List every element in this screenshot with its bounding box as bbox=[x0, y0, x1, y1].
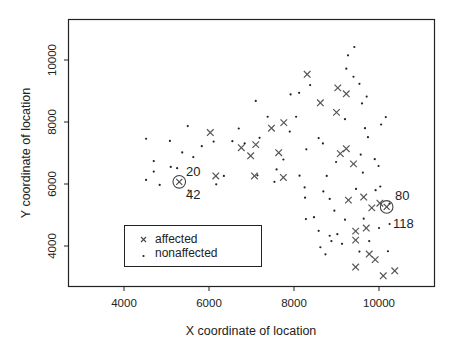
nonaffected-point-icon bbox=[358, 83, 360, 85]
affected-point-icon bbox=[345, 197, 352, 204]
nonaffected-point-icon bbox=[378, 227, 380, 229]
affected-point-icon bbox=[380, 272, 387, 279]
nonaffected-point-icon bbox=[336, 233, 338, 235]
nonaffected-point-icon bbox=[324, 253, 326, 255]
nonaffected-point-icon bbox=[329, 198, 331, 200]
nonaffected-point-icon bbox=[364, 127, 366, 129]
affected-point-icon bbox=[366, 251, 373, 258]
affected-point-icon bbox=[363, 225, 370, 232]
x-tick-label: 4000 bbox=[111, 297, 137, 309]
annotation-20: 20 bbox=[186, 164, 200, 179]
nonaffected-point-icon bbox=[255, 100, 257, 102]
nonaffected-point-icon bbox=[361, 102, 363, 104]
affected-point-icon bbox=[252, 141, 259, 148]
y-axis-title: Y coordinate of location bbox=[19, 88, 33, 218]
annotation-80: 80 bbox=[395, 188, 409, 203]
annotation-42: 42 bbox=[186, 187, 200, 202]
nonaffected-point-icon bbox=[335, 161, 337, 163]
affected-point-icon bbox=[352, 237, 359, 244]
affected-point-icon bbox=[281, 119, 288, 126]
nonaffected-point-icon bbox=[305, 218, 307, 220]
nonaffected-point-icon bbox=[345, 68, 347, 70]
nonaffected-point-icon bbox=[215, 183, 217, 185]
nonaffected-point-icon bbox=[389, 223, 391, 225]
nonaffected-point-icon bbox=[213, 140, 215, 142]
nonaffected-point-icon bbox=[322, 142, 324, 144]
nonaffected-point-icon bbox=[367, 136, 369, 138]
nonaffected-point-icon bbox=[153, 160, 155, 162]
affected-point-icon bbox=[372, 256, 379, 263]
nonaffected-point-icon bbox=[176, 167, 178, 169]
x-tick-label: 10000 bbox=[363, 297, 395, 309]
nonaffected-point-icon bbox=[322, 190, 324, 192]
nonaffected-point-icon bbox=[304, 197, 306, 199]
nonaffected-point-icon bbox=[169, 140, 171, 142]
nonaffected-point-icon bbox=[282, 158, 284, 160]
affected-point-icon bbox=[333, 109, 340, 116]
nonaffected-point-icon bbox=[368, 240, 370, 242]
affected-point-icon bbox=[213, 173, 220, 180]
affected-point-icon bbox=[343, 90, 350, 97]
y-tick-label: 8000 bbox=[46, 109, 58, 135]
nonaffected-point-icon bbox=[375, 189, 377, 191]
nonaffected-point-icon bbox=[238, 127, 240, 129]
nonaffected-point-icon bbox=[187, 125, 189, 127]
nonaffected-point-icon bbox=[379, 185, 381, 187]
x-tick-label: 6000 bbox=[196, 297, 222, 309]
nonaffected-point-icon bbox=[231, 140, 233, 142]
highlighted-points bbox=[173, 176, 393, 214]
affected-point-icon bbox=[352, 228, 359, 235]
nonaffected-point-icon bbox=[385, 116, 387, 118]
nonaffected-point-icon bbox=[289, 131, 291, 133]
legend-label-affected: affected bbox=[155, 232, 197, 246]
nonaffected-point-icon bbox=[352, 76, 354, 78]
y-axis: 40006000800010000 bbox=[46, 44, 69, 259]
nonaffected-point-icon bbox=[355, 188, 357, 190]
affected-point-icon bbox=[368, 205, 375, 212]
affected-point-icon bbox=[238, 144, 245, 151]
nonaffected-point-icon bbox=[192, 156, 194, 158]
y-tick-label: 4000 bbox=[46, 233, 58, 259]
affected-point-icon bbox=[247, 152, 254, 159]
nonaffected-point-icon bbox=[333, 210, 335, 212]
legend-dot-icon bbox=[142, 255, 144, 257]
legend-label-nonaffected: nonaffected bbox=[155, 246, 218, 260]
affected-point-icon bbox=[391, 268, 398, 275]
nonaffected-point-icon bbox=[159, 184, 161, 186]
series-nonaffected bbox=[145, 46, 391, 256]
nonaffected-point-icon bbox=[319, 246, 321, 248]
nonaffected-point-icon bbox=[341, 243, 343, 245]
nonaffected-point-icon bbox=[181, 151, 183, 153]
nonaffected-point-icon bbox=[347, 54, 349, 56]
affected-point-icon bbox=[343, 145, 350, 152]
x-axis-title: X coordinate of location bbox=[186, 324, 317, 338]
nonaffected-point-icon bbox=[298, 92, 300, 94]
nonaffected-point-icon bbox=[290, 93, 292, 95]
affected-point-icon bbox=[334, 85, 341, 92]
nonaffected-point-icon bbox=[358, 250, 360, 252]
nonaffected-point-icon bbox=[153, 171, 155, 173]
nonaffected-point-icon bbox=[318, 137, 320, 139]
nonaffected-point-icon bbox=[273, 181, 275, 183]
nonaffected-point-icon bbox=[377, 165, 379, 167]
affected-point-icon bbox=[275, 149, 282, 156]
affected-point-icon bbox=[304, 71, 311, 78]
nonaffected-point-icon bbox=[318, 230, 320, 232]
affected-point-icon bbox=[352, 264, 359, 271]
affected-point-icon bbox=[317, 99, 324, 106]
y-tick-label: 6000 bbox=[46, 171, 58, 197]
affected-point-icon bbox=[350, 161, 357, 168]
circled-x-icon bbox=[173, 176, 186, 189]
x-tick-label: 8000 bbox=[281, 297, 307, 309]
scatter-chart: 40006000800010000 40006000800010000 X co… bbox=[0, 0, 453, 358]
nonaffected-point-icon bbox=[363, 218, 365, 220]
nonaffected-point-icon bbox=[387, 250, 389, 252]
affected-point-icon bbox=[337, 150, 344, 157]
affected-point-icon bbox=[207, 129, 214, 136]
nonaffected-point-icon bbox=[366, 95, 368, 97]
nonaffected-point-icon bbox=[304, 186, 306, 188]
nonaffected-point-icon bbox=[258, 137, 260, 139]
nonaffected-point-icon bbox=[330, 240, 332, 242]
annotation-118: 118 bbox=[393, 216, 414, 231]
nonaffected-point-icon bbox=[295, 116, 297, 118]
